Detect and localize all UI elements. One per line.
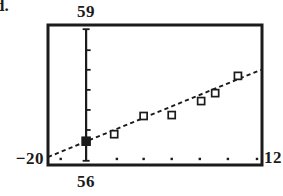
- scatter-plot-svg: [0, 0, 283, 196]
- x-tick-dot: [142, 158, 144, 160]
- calculator-scatterplot-figure: d. 59 −20 56 12: [0, 0, 283, 196]
- data-point-square: [168, 112, 175, 119]
- plot-frame: [48, 25, 262, 165]
- data-point-square: [140, 113, 147, 120]
- x-tick-dot: [171, 158, 173, 160]
- data-point-square: [198, 98, 205, 105]
- x-tick-dot: [256, 158, 258, 160]
- data-point-square: [111, 131, 118, 138]
- x-tick-dot: [227, 158, 229, 160]
- highlighted-point: [82, 137, 91, 146]
- data-point-square: [212, 90, 219, 97]
- x-tick-dot: [199, 158, 201, 160]
- data-point-square: [234, 72, 241, 79]
- x-tick-dot: [116, 158, 118, 160]
- x-tick-dot: [60, 158, 62, 160]
- trend-line: [48, 70, 261, 157]
